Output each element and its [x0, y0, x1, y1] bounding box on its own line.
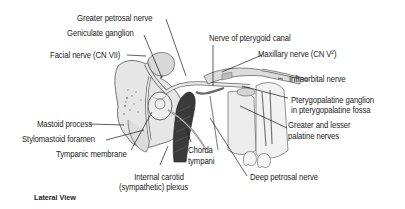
label-greater-lesser-palatine-line1: Greater and lesser: [288, 120, 350, 130]
label-pterygopalatine-ganglion-line2: in pterygopalatine fossa: [291, 105, 371, 115]
label-facial-nerve: Facial nerve (CN VII): [50, 50, 120, 60]
label-nerve-of-pterygoid-canal: Nerve of pterygoid canal: [209, 33, 291, 43]
label-maxillary-nerve: Maxillary nerve (CN V2): [258, 49, 336, 59]
tooth: [243, 152, 256, 166]
label-internal-carotid-line1: Internal carotid: [123, 172, 195, 182]
anatomy-figure: Greater petrosal nerve Geniculate gangli…: [0, 0, 405, 209]
tooth: [257, 154, 270, 168]
label-greater-petrosal-nerve: Greater petrosal nerve: [77, 13, 152, 23]
pterygoid-plate-left: [228, 91, 256, 154]
label-internal-carotid-line2: (sympathetic) plexus: [113, 182, 194, 192]
figure-caption: Lateral View: [34, 193, 76, 202]
label-geniculate-ganglion: Geniculate ganglion: [67, 28, 134, 38]
label-chorda-tympani-line2: tympani: [188, 156, 214, 166]
label-greater-lesser-palatine-line2: palatine nerves: [288, 131, 339, 141]
label-deep-petrosal-nerve: Deep petrosal nerve: [250, 172, 318, 182]
maxillary-nerve-band: [204, 68, 300, 84]
label-tympanic-membrane: Tympanic membrane: [56, 149, 127, 159]
label-chorda-tympani-line1: Chorda: [188, 145, 213, 155]
label-stylomastoid-foramen: Stylomastoid foramen: [22, 134, 95, 144]
middle-ear: [148, 92, 172, 120]
label-pterygopalatine-ganglion-line1: Pterygopalatine ganglion: [291, 95, 374, 105]
pterygopalatine-ganglion: [237, 88, 255, 96]
label-mastoid-process: Mastoid process: [37, 119, 92, 129]
label-infraorbital-nerve: Infraorbital nerve: [289, 74, 345, 84]
